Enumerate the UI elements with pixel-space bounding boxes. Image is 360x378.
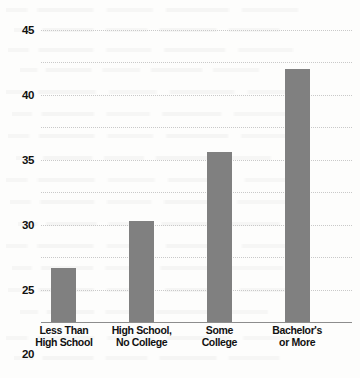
category-labels-group: Less ThanHigh SchoolHigh School,No Colle… (41, 325, 352, 369)
bar-slot[interactable] (51, 30, 76, 322)
bar[interactable] (129, 221, 154, 322)
plot-area: 051015202530354045 (41, 30, 352, 322)
y-axis-tick-label-40: 40 (22, 90, 34, 102)
category-label-line: Bachelor's (251, 325, 343, 337)
bars-group (41, 30, 352, 322)
bar[interactable] (51, 268, 76, 322)
y-axis-tick-label-20: 20 (22, 350, 34, 362)
bar-chart: 051015202530354045 Less ThanHigh SchoolH… (0, 0, 360, 378)
category-label: Bachelor'sor More (251, 325, 343, 348)
y-axis-tick-label-45: 45 (22, 25, 34, 37)
bar-slot[interactable] (207, 30, 232, 322)
bar-slot[interactable] (129, 30, 154, 322)
bar[interactable] (285, 69, 310, 322)
bar[interactable] (207, 152, 232, 322)
y-axis-tick-label-35: 35 (22, 155, 34, 167)
y-axis-tick-label-30: 30 (22, 220, 34, 232)
category-label-line: or More (251, 337, 343, 349)
bar-slot[interactable] (285, 30, 310, 322)
y-axis-tick-label-25: 25 (22, 285, 34, 297)
x-axis-baseline: 0 (41, 322, 352, 323)
